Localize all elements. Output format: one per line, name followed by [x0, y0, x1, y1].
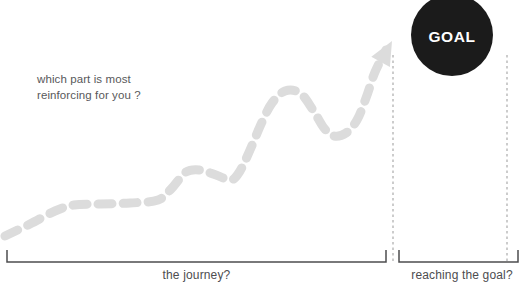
diagram-canvas: which part is most reinforcing for you ?…: [0, 0, 528, 291]
bracket-label-journey: the journey?: [0, 268, 393, 282]
bracket-label-reaching-goal: reaching the goal?: [396, 268, 528, 282]
reaching-goal-bracket: [399, 250, 518, 262]
journey-bracket: [7, 250, 386, 262]
goal-badge-label: GOAL: [428, 25, 475, 45]
reinforcement-question-note: which part is most reinforcing for you ?: [37, 71, 237, 104]
